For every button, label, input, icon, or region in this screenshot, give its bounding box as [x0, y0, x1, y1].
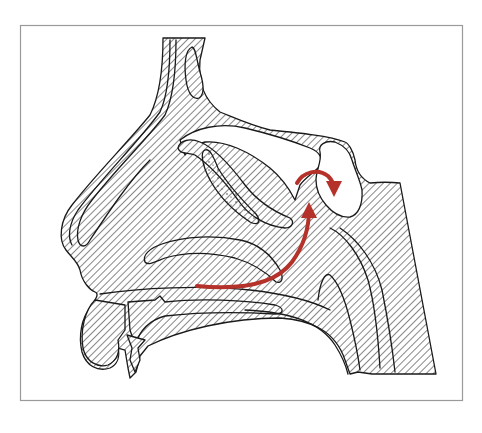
nasal-cavity-diagram: [0, 0, 482, 433]
